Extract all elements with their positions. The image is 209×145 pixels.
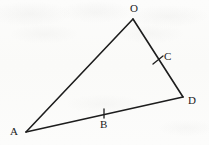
vertex-label-O: O: [130, 3, 138, 14]
point-label-B: B: [100, 119, 108, 130]
vertex-label-D: D: [188, 95, 196, 106]
vertex-label-A: A: [10, 126, 18, 137]
point-label-C: C: [164, 51, 172, 62]
geometry-figure-canvas: O D A C B: [0, 0, 209, 145]
edge-OD: [133, 19, 183, 97]
edge-AO: [26, 19, 133, 132]
